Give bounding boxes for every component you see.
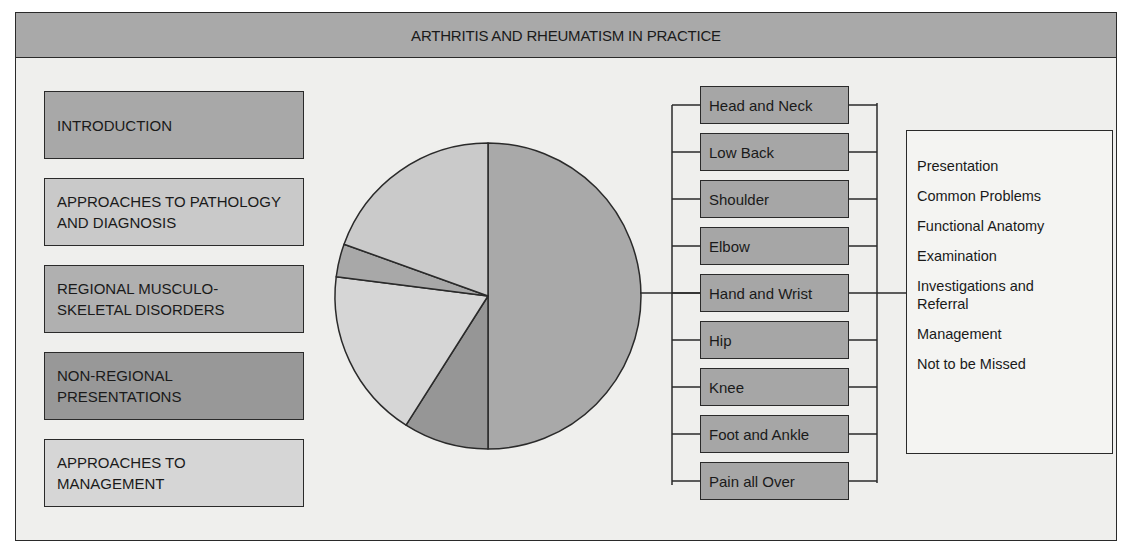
chapter-item-management: Management (917, 325, 1112, 343)
chapter-item-investigations-referral: Investigations and Referral (917, 277, 1112, 313)
region-box-pain-all-over: Pain all Over (700, 462, 849, 500)
chapter-structure-box: Presentation Common Problems Functional … (906, 130, 1113, 454)
chapter-item-presentation: Presentation (917, 157, 1112, 175)
region-box-knee: Knee (700, 368, 849, 406)
chapter-item-common-problems: Common Problems (917, 187, 1112, 205)
region-box-elbow: Elbow (700, 227, 849, 265)
chapter-item-examination: Examination (917, 247, 1112, 265)
chapter-item-not-to-be-missed: Not to be Missed (917, 355, 1112, 373)
region-box-head-and-neck: Head and Neck (700, 86, 849, 124)
region-box-low-back: Low Back (700, 133, 849, 171)
pie-chart (335, 143, 641, 449)
region-box-hand-and-wrist: Hand and Wrist (700, 274, 849, 312)
chapter-item-functional-anatomy: Functional Anatomy (917, 217, 1112, 235)
region-box-hip: Hip (700, 321, 849, 359)
pie-slice-0 (488, 143, 641, 449)
region-box-foot-and-ankle: Foot and Ankle (700, 415, 849, 453)
region-box-shoulder: Shoulder (700, 180, 849, 218)
